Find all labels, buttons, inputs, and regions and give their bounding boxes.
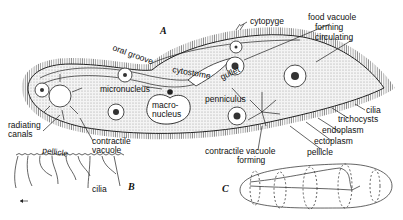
label-cytopyge: cytopyge xyxy=(250,16,284,26)
label-b-cilia: cilia xyxy=(92,184,107,194)
label-endoplasm: endoplasm xyxy=(322,125,364,135)
figure-b-cilia xyxy=(15,154,124,204)
paramecium-diagram: A oral groove cytopyge food vacuole form… xyxy=(0,0,403,220)
label-penniculus: penniculus xyxy=(205,94,246,104)
label-ectoplasm: ectoplasm xyxy=(314,136,353,146)
label-macronucleus-2: nucleus xyxy=(152,109,181,119)
figure-label-c: C xyxy=(222,183,229,194)
figure-label-a: A xyxy=(159,25,167,36)
figure-c-outline xyxy=(240,164,392,209)
label-cv-forming-2: forming xyxy=(237,155,266,165)
label-food-vacuole-forming: forming xyxy=(315,22,344,32)
micronucleus xyxy=(167,89,173,95)
label-pellicle: pellicle xyxy=(307,147,333,157)
label-canals: canals xyxy=(8,129,33,139)
label-food-vacuole-circulating: circulating xyxy=(315,32,354,42)
label-b-pellicle: pellicle xyxy=(42,145,69,159)
label-food-vacuole: food vacuole xyxy=(308,12,356,22)
figure-label-b: B xyxy=(127,181,135,192)
label-trichocysts: trichocysts xyxy=(338,114,378,124)
label-micronucleus: micronucleus xyxy=(100,84,150,94)
